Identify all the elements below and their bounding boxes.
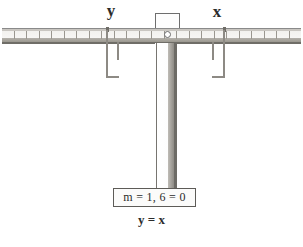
beam-tick xyxy=(27,31,40,39)
beam-tick xyxy=(90,31,103,39)
beam-tick xyxy=(227,31,240,39)
beam-tick xyxy=(240,31,253,39)
beam-label-y: y xyxy=(101,2,121,19)
beam-tick xyxy=(252,31,265,39)
readout-text: m = 1, 6 = 0 xyxy=(123,190,185,205)
beam-tick xyxy=(52,31,65,39)
beam-tick xyxy=(215,31,228,39)
pivot-hole-icon xyxy=(164,31,171,38)
beam-tick xyxy=(15,31,28,39)
beam-label-x: x xyxy=(207,3,227,20)
beam-tick xyxy=(127,31,140,39)
beam-tick xyxy=(115,31,128,39)
hanger-rod-base xyxy=(106,76,119,78)
hanger-rod-long xyxy=(106,30,108,78)
beam-tick xyxy=(152,31,165,39)
beam-tick xyxy=(177,31,190,39)
beam-tick xyxy=(102,31,115,39)
balance-scale-diagram: y x xyxy=(0,0,303,247)
support-column xyxy=(155,43,177,191)
beam-tick xyxy=(40,31,53,39)
beam-tick xyxy=(140,31,153,39)
graduated-beam xyxy=(2,28,301,44)
hanger-rod-short xyxy=(117,42,119,60)
diagram-caption: y = x xyxy=(0,212,303,228)
beam-tick-marks xyxy=(2,31,301,39)
beam-tick xyxy=(65,31,78,39)
beam-tick xyxy=(2,31,15,39)
beam-tick xyxy=(290,31,302,39)
hanger-rod-base xyxy=(212,76,225,78)
hanger-rod-long xyxy=(223,30,225,78)
beam-tick xyxy=(77,31,90,39)
beam-tick xyxy=(277,31,290,39)
beam-tick xyxy=(190,31,203,39)
beam-tick xyxy=(202,31,215,39)
hanger-rod-short xyxy=(212,42,214,60)
beam-tick xyxy=(265,31,278,39)
readout-box: m = 1, 6 = 0 xyxy=(113,188,196,207)
